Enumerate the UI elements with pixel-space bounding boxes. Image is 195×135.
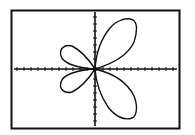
graph-canvas [0, 0, 195, 135]
origin-point [93, 67, 97, 71]
calculator-graph-screen: Graph display [0, 0, 195, 135]
